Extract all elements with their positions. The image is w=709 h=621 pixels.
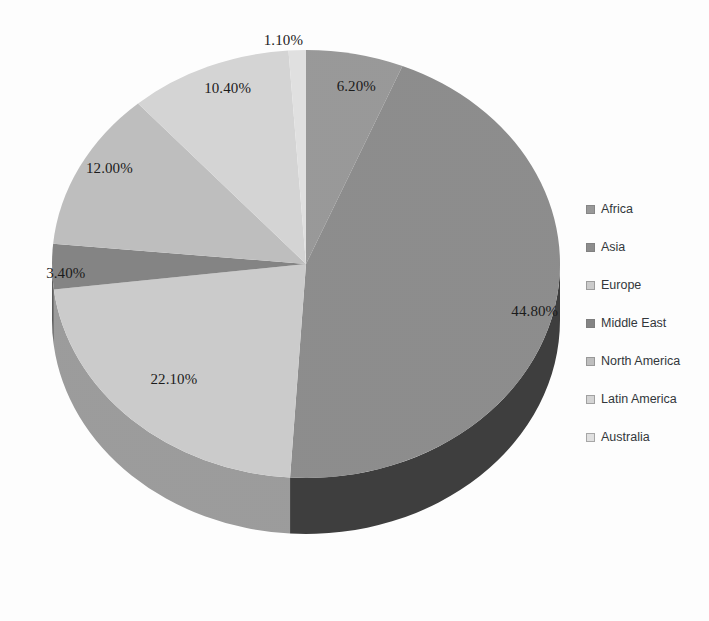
legend-item-africa[interactable]: Africa — [586, 190, 706, 228]
legend-item-middle-east[interactable]: Middle East — [586, 304, 706, 342]
pie-chart-figure: 6.20%44.80%22.10%3.40%12.00%10.40%1.10% … — [0, 0, 709, 621]
legend-swatch-icon — [586, 319, 595, 328]
legend-swatch-icon — [586, 395, 595, 404]
legend-swatch-icon — [586, 205, 595, 214]
data-label-africa: 6.20% — [337, 78, 376, 94]
legend-item-label: North America — [601, 355, 680, 368]
data-label-north-america: 12.00% — [86, 160, 133, 176]
pie-slices — [52, 50, 560, 478]
legend-swatch-icon — [586, 281, 595, 290]
legend-item-label: Asia — [601, 241, 625, 254]
legend-item-label: Europe — [601, 279, 641, 292]
legend-item-north-america[interactable]: North America — [586, 342, 706, 380]
legend-item-europe[interactable]: Europe — [586, 266, 706, 304]
data-label-middle-east: 3.40% — [46, 265, 85, 281]
data-label-asia: 44.80% — [511, 303, 558, 319]
legend-swatch-icon — [586, 433, 595, 442]
legend-swatch-icon — [586, 243, 595, 252]
data-label-latin-america: 10.40% — [204, 80, 251, 96]
legend-item-label: Africa — [601, 203, 633, 216]
chart-legend: AfricaAsiaEuropeMiddle EastNorth America… — [586, 190, 706, 456]
legend-item-asia[interactable]: Asia — [586, 228, 706, 266]
legend-item-label: Middle East — [601, 317, 666, 330]
legend-item-label: Latin America — [601, 393, 677, 406]
legend-item-label: Australia — [601, 431, 650, 444]
legend-item-australia[interactable]: Australia — [586, 418, 706, 456]
data-label-europe: 22.10% — [150, 371, 197, 387]
legend-item-latin-america[interactable]: Latin America — [586, 380, 706, 418]
legend-swatch-icon — [586, 357, 595, 366]
data-label-australia: 1.10% — [264, 32, 303, 48]
